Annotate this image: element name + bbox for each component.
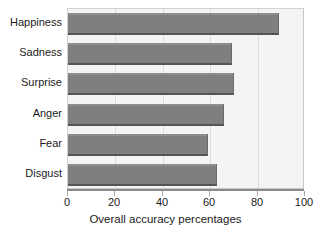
category-label-disgust: Disgust — [0, 167, 62, 179]
category-label-fear: Fear — [0, 137, 62, 149]
bar-row — [68, 73, 304, 95]
x-tick-label-40: 40 — [142, 196, 182, 208]
category-label-happiness: Happiness — [0, 16, 62, 28]
category-label-sadness: Sadness — [0, 46, 62, 58]
x-axis-title: Overall accuracy percentages — [0, 213, 331, 225]
bars-group — [68, 9, 303, 188]
x-tick-label-100: 100 — [284, 196, 324, 208]
plot-area — [67, 8, 304, 189]
category-label-surprise: Surprise — [0, 76, 62, 88]
bar-row — [68, 164, 304, 186]
bar-happiness — [68, 13, 279, 35]
x-tick-label-20: 20 — [94, 196, 134, 208]
bar-row — [68, 13, 304, 35]
x-tick-label-0: 0 — [47, 196, 87, 208]
category-label-anger: Anger — [0, 107, 62, 119]
bar-row — [68, 134, 304, 156]
bar-disgust — [68, 164, 217, 186]
bar-row — [68, 104, 304, 126]
bar-surprise — [68, 73, 234, 95]
bar-row — [68, 43, 304, 65]
bar-chart: 020406080100 HappinessSadnessSurpriseAng… — [0, 0, 331, 239]
bar-anger — [68, 104, 224, 126]
bar-fear — [68, 134, 208, 156]
x-axis-line — [67, 189, 304, 191]
x-tick-label-60: 60 — [189, 196, 229, 208]
bar-sadness — [68, 43, 232, 65]
x-tick-label-80: 80 — [237, 196, 277, 208]
